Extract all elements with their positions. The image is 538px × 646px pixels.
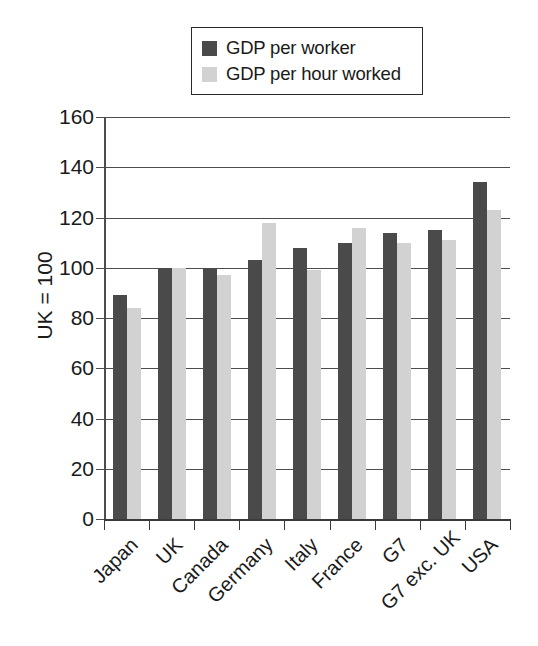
y-tick-right-20	[500, 469, 510, 470]
y-tick-20	[96, 469, 105, 470]
y-tick-label-0: 0	[32, 508, 94, 529]
y-tick-label-120: 120	[32, 207, 94, 228]
bar-chart: GDP per worker GDP per hour worked UK = …	[0, 0, 538, 646]
y-tick-label-60: 60	[32, 357, 94, 378]
legend-entry-gdp-per-worker: GDP per worker	[202, 35, 422, 61]
bar-germany-series-1	[262, 223, 276, 519]
legend-swatch-icon-series-1	[202, 67, 217, 82]
y-tick-right-100	[500, 268, 510, 269]
gridline-120	[104, 218, 510, 219]
legend-swatch-icon-series-0	[202, 41, 217, 56]
y-tick-right-140	[500, 167, 510, 168]
y-tick-label-80: 80	[32, 307, 94, 328]
x-tick-6	[420, 519, 421, 530]
y-tick-label-20: 20	[32, 458, 94, 479]
y-tick-60	[96, 368, 105, 369]
y-tick-right-60	[500, 368, 510, 369]
y-tick-label-100: 100	[32, 257, 94, 278]
y-tick-120	[96, 218, 105, 219]
bar-germany-series-0	[248, 260, 262, 519]
y-tick-100	[96, 268, 105, 269]
x-tick-2	[239, 519, 240, 530]
y-tick-label-160: 160	[32, 106, 94, 127]
bar-g7-exc-uk-series-0	[428, 230, 442, 519]
y-tick-160	[96, 117, 105, 118]
bar-uk-series-0	[158, 268, 172, 519]
legend-label-series-1: GDP per hour worked	[226, 65, 401, 84]
bar-usa-series-0	[473, 182, 487, 519]
bar-usa-series-1	[487, 210, 501, 519]
bar-france-series-1	[352, 228, 366, 519]
bar-japan-series-0	[113, 295, 127, 519]
bar-g7-series-0	[383, 233, 397, 519]
bar-g7-series-1	[397, 243, 411, 519]
bar-canada-series-0	[203, 268, 217, 519]
y-tick-label-140: 140	[32, 156, 94, 177]
x-tick-1	[194, 519, 195, 530]
bar-canada-series-1	[217, 275, 231, 519]
chart-legend: GDP per worker GDP per hour worked	[191, 27, 423, 95]
x-tick-3	[284, 519, 285, 530]
y-tick-right-160	[500, 117, 510, 118]
x-tick-origin	[104, 519, 105, 530]
gridline-140	[104, 167, 510, 168]
gridline-160	[104, 117, 510, 118]
bar-france-series-0	[338, 243, 352, 519]
y-tick-40	[96, 419, 105, 420]
y-tick-140	[96, 167, 105, 168]
y-tick-right-40	[500, 419, 510, 420]
y-tick-right-120	[500, 218, 510, 219]
bar-italy-series-0	[293, 248, 307, 519]
bar-uk-series-1	[172, 268, 186, 519]
y-tick-80	[96, 318, 105, 319]
x-tick-7	[465, 519, 466, 530]
legend-label-series-0: GDP per worker	[226, 39, 355, 58]
y-tick-label-40: 40	[32, 408, 94, 429]
bar-g7-exc-uk-series-1	[442, 240, 456, 519]
bar-japan-series-1	[127, 308, 141, 519]
x-axis-line	[104, 519, 510, 521]
x-tick-0	[149, 519, 150, 530]
legend-entry-gdp-per-hour-worked: GDP per hour worked	[202, 61, 422, 87]
x-tick-8	[510, 519, 511, 530]
bar-italy-series-1	[307, 270, 321, 519]
x-tick-5	[375, 519, 376, 530]
y-tick-right-80	[500, 318, 510, 319]
y-axis-tick-labels: 160140120100806040200	[28, 0, 94, 646]
x-tick-4	[330, 519, 331, 530]
